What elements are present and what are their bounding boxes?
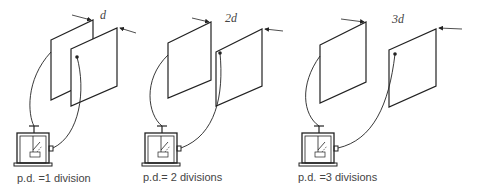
wire-to-cap [30, 52, 51, 126]
pd-label-2: p.d.= 2 divisions [143, 171, 222, 183]
separation-arrow-right [265, 29, 283, 31]
capacitor-plate-right [216, 29, 262, 106]
capacitor-plate-right [389, 29, 436, 107]
separation-arrow-left [72, 15, 91, 20]
separation-label-1: d [100, 8, 106, 23]
panel-2 [142, 18, 283, 166]
capacitor-plate-left [320, 22, 366, 103]
separation-label-2: 2d [225, 11, 237, 26]
electroscope [14, 126, 53, 166]
capacitor-plate-left [168, 22, 211, 98]
pd-label-1: p.d. =1 division [17, 172, 91, 184]
electroscope [299, 126, 338, 166]
pd-label-3: p.d. =3 divisions [298, 171, 377, 183]
panel-1 [14, 15, 136, 166]
separation-arrow-right [439, 28, 462, 29]
separation-arrow-left [341, 19, 364, 22]
separation-label-3: 3d [392, 12, 404, 27]
wire-to-cap [150, 55, 168, 126]
electroscope [142, 126, 181, 166]
wire-to-cap [306, 56, 320, 126]
separation-arrow-right [120, 28, 136, 33]
panel-3 [299, 19, 462, 166]
separation-arrow-left [192, 18, 209, 22]
diagram-canvas [0, 0, 478, 195]
